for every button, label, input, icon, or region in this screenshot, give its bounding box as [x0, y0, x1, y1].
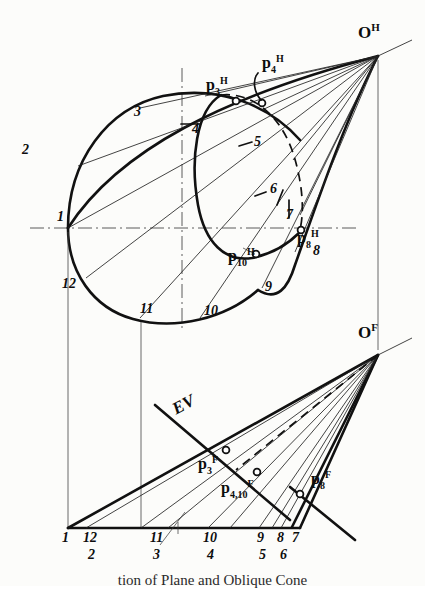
top-number-4: 4: [192, 122, 199, 136]
base-number-top-12: 12: [83, 531, 97, 545]
base-number-bottom-2: 2: [88, 548, 95, 562]
base-number-top-7: 7: [292, 531, 299, 545]
top-number-2: 2: [22, 143, 29, 157]
point-label-p3-front: p3F: [198, 455, 218, 476]
base-number-bottom-3: 3: [153, 548, 160, 562]
point-label-p4-top: p4H: [262, 54, 284, 75]
point-label-p8-front: p8F: [311, 470, 331, 491]
base-number-bottom-6: 6: [280, 548, 287, 562]
point-label-p410-front: p4,10F: [221, 479, 254, 500]
base-number-top-9: 9: [257, 531, 264, 545]
point-label-p10-top: p10H: [228, 247, 255, 268]
figure-caption: tion of Plane and Oblique Cone: [0, 572, 425, 589]
base-number-bottom-4: 4: [207, 548, 214, 562]
top-number-6: 6: [270, 182, 277, 196]
front-view-cone: [68, 355, 378, 528]
top-number-5: 5: [254, 135, 261, 149]
apex-label-front: OF: [358, 322, 378, 341]
top-number-7: 7: [286, 208, 293, 222]
top-number-3: 3: [134, 105, 141, 119]
top-view-centerlines: [30, 68, 356, 330]
apex-ray-front: [378, 338, 412, 355]
top-number-10: 10: [204, 304, 218, 318]
cut-point-markers-top: [233, 98, 305, 258]
top-number-9: 9: [265, 280, 272, 294]
top-number-11: 11: [140, 302, 153, 316]
base-number-bottom-5: 5: [259, 548, 266, 562]
point-label-p8-top: p8H: [297, 229, 319, 250]
apex-label-top: OH: [358, 22, 380, 41]
base-number-top-1: 1: [62, 531, 69, 545]
cut-curve-top-view: [195, 95, 303, 259]
base-number-top-11: 11: [150, 531, 163, 545]
top-number-1: 1: [57, 210, 64, 224]
point-label-p3-top: p3H: [206, 76, 228, 97]
base-number-top-8: 8: [277, 531, 284, 545]
base-number-top-10: 10: [203, 531, 217, 545]
apex-ray-top: [378, 40, 412, 56]
top-number-12: 12: [62, 277, 76, 291]
